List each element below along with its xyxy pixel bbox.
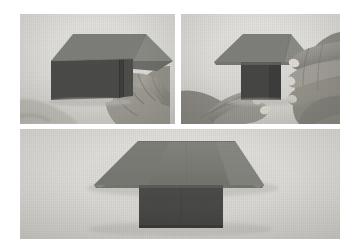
roof-eave-shadow [94,185,264,188]
step-1-illustration [20,14,175,124]
figure-sheet [0,0,358,250]
base-bottom-shade [139,225,223,228]
step-2-photo [181,14,340,124]
model-body-shade [269,62,281,100]
step-3-illustration [20,129,340,239]
model-shadow [227,99,295,106]
model-body-right [124,59,133,97]
step-1-photo [20,14,175,124]
model-body-left [51,59,119,100]
step-2-illustration [181,14,340,124]
step-3-photo [20,129,340,239]
model-shadow [48,98,132,106]
